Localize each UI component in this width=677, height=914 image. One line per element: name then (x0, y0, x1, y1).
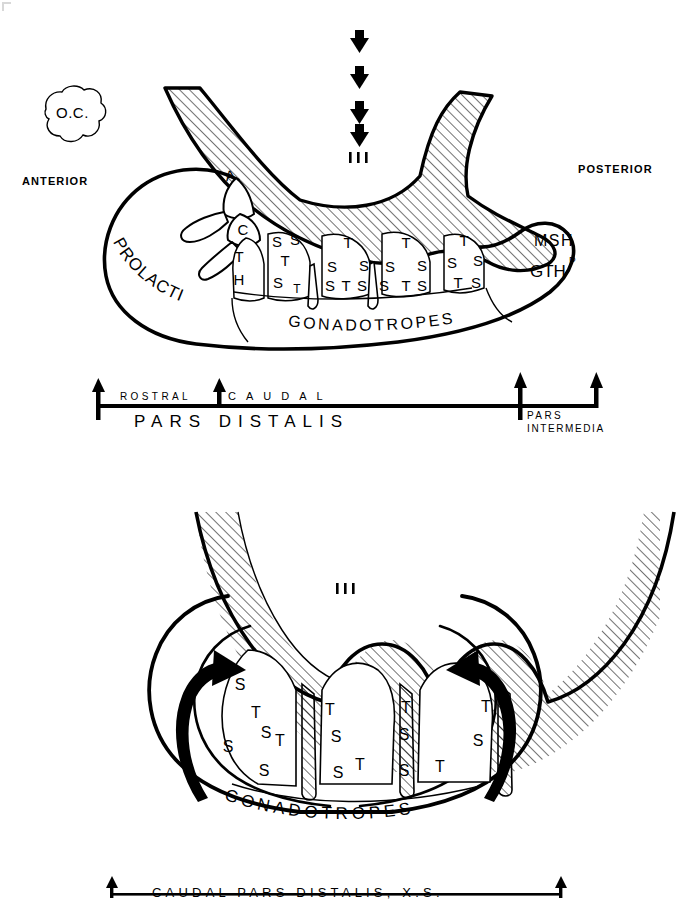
svg-text:S: S (357, 277, 367, 294)
third-ventricle-marks-bottom (336, 583, 355, 594)
svg-text:S: S (399, 762, 410, 779)
svg-text:S: S (417, 277, 427, 294)
svg-text:T: T (435, 758, 445, 775)
pars-intermedia-label-line1: PARS (527, 410, 563, 421)
svg-text:S: S (385, 258, 395, 275)
svg-text:S: S (290, 231, 300, 248)
svg-text:S: S (473, 252, 483, 269)
pars-distalis-label: PARS DISTALIS (134, 412, 349, 431)
svg-text:T: T (459, 232, 468, 249)
gth-label: GTH (530, 262, 566, 281)
svg-text:S: S (471, 274, 481, 291)
svg-text:T: T (280, 252, 289, 269)
svg-text:S: S (331, 728, 342, 745)
anterior-label: ANTERIOR (22, 175, 88, 187)
scale-tick-2 (213, 378, 226, 408)
svg-text:T: T (401, 699, 411, 716)
svg-text:T: T (401, 277, 410, 294)
svg-text:T: T (251, 704, 261, 721)
scale-tick-3 (514, 372, 527, 420)
svg-text:S: S (325, 277, 335, 294)
gth-superscript-label: P (569, 256, 576, 267)
svg-text:S: S (327, 258, 337, 275)
svg-text:T: T (355, 756, 365, 773)
svg-text:S: S (272, 233, 282, 250)
top-panel: O.C. ANTERIOR POSTERIOR A C PROLACTIN GO… (0, 0, 653, 349)
gonadotropes-label-bottom: GONADOTROPES (222, 785, 415, 823)
arrow-down-4 (350, 124, 369, 147)
gonadotropes-label-top: GONADOTROPES (287, 309, 456, 333)
svg-text:T: T (293, 282, 301, 296)
optic-chiasma-label: O.C. (56, 104, 89, 121)
scale-bar-line (98, 404, 598, 408)
scale-tick-4 (590, 372, 603, 408)
svg-text:T: T (401, 234, 410, 251)
svg-text:T: T (275, 732, 285, 749)
svg-text:S: S (235, 676, 246, 693)
crop-corner-mark (2, 2, 11, 11)
arrow-down-1 (350, 30, 369, 53)
svg-text:S: S (273, 274, 283, 291)
pars-intermedia-label-line2: INTERMEDIA (527, 423, 605, 434)
arrow-down-3 (350, 101, 369, 124)
svg-text:T: T (341, 277, 350, 294)
posterior-label: POSTERIOR (578, 163, 653, 175)
svg-text:T: T (453, 274, 462, 291)
svg-text:S: S (359, 257, 369, 274)
msh-label: MSH (534, 232, 574, 249)
caudal-label: CAUDAL (228, 390, 333, 402)
scale-tick-1 (92, 378, 105, 420)
svg-text:S: S (447, 254, 457, 271)
svg-text:S: S (379, 277, 389, 294)
bottom-caption-bar: CAUDAL PARS DISTALIS, X.S. (106, 876, 567, 900)
svg-text:S: S (399, 726, 410, 743)
svg-text:T: T (343, 234, 352, 251)
svg-text:S: S (417, 257, 427, 274)
diagram-svg: O.C. ANTERIOR POSTERIOR A C PROLACTIN GO… (0, 0, 677, 914)
lobe-c-label: C (238, 221, 249, 238)
descending-arrows-group (350, 30, 369, 147)
caption-text: CAUDAL PARS DISTALIS, X.S. (152, 885, 444, 900)
bottom-panel: S T S S T S T S S T T S S T T S GONADOTR (149, 505, 674, 823)
projection-upper (181, 212, 228, 242)
svg-text:T: T (481, 698, 491, 715)
svg-text:S: S (473, 732, 484, 749)
third-ventricle-marks-top (349, 152, 368, 163)
prolactin-label: PROLACTIN (0, 0, 187, 305)
scale-bar: ROSTRAL CAUDAL PARS DISTALIS PARS INTERM… (92, 372, 605, 434)
svg-text:S: S (259, 762, 270, 779)
svg-text:T: T (325, 701, 335, 718)
svg-text:S: S (261, 724, 272, 741)
cluster-divider-left (232, 298, 248, 342)
svg-text:S: S (223, 738, 234, 755)
svg-text:T: T (234, 248, 243, 265)
svg-text:S: S (333, 764, 344, 781)
svg-text:H: H (234, 271, 245, 288)
rostral-label: ROSTRAL (120, 391, 191, 402)
arrow-down-2 (350, 66, 369, 89)
figure-canvas: O.C. ANTERIOR POSTERIOR A C PROLACTIN GO… (0, 0, 677, 914)
